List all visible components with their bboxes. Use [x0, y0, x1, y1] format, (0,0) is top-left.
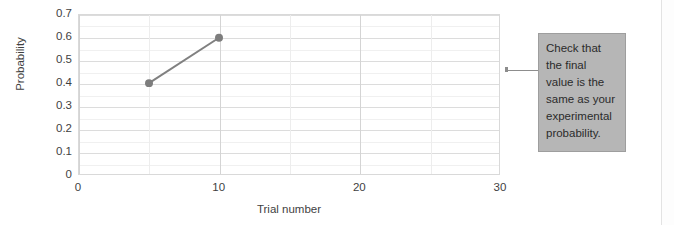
y-tick-label: 0 [24, 169, 72, 181]
x-tick-label: 0 [75, 182, 81, 194]
right-margin-strip [662, 0, 674, 225]
x-axis-tick-labels: 0102030 [0, 182, 520, 198]
x-tick-label: 20 [353, 182, 366, 194]
y-tick-label: 0.2 [24, 123, 72, 135]
chart-page: Probability 0.70.60.50.40.30.20.10 01020… [0, 0, 674, 225]
data-point-marker [145, 79, 153, 87]
data-series-layer [79, 15, 499, 174]
line-chart-figure: Probability 0.70.60.50.40.30.20.10 01020… [0, 0, 520, 225]
callout-box: Check that the final value is the same a… [538, 33, 626, 152]
y-tick-label: 0.1 [24, 146, 72, 158]
callout-leader-line [506, 70, 539, 71]
y-tick-label: 0.5 [24, 54, 72, 66]
x-axis-title: Trial number [78, 203, 500, 215]
series-line [149, 38, 219, 83]
callout-text: Check that the final value is the same a… [546, 40, 618, 142]
y-tick-label: 0.6 [24, 31, 72, 43]
y-tick-label: 0.7 [24, 8, 72, 20]
y-tick-label: 0.3 [24, 100, 72, 112]
y-tick-label: 0.4 [24, 77, 72, 89]
x-tick-label: 30 [494, 182, 507, 194]
plot-area [78, 14, 500, 175]
data-point-marker [215, 34, 223, 42]
x-tick-label: 10 [212, 182, 225, 194]
